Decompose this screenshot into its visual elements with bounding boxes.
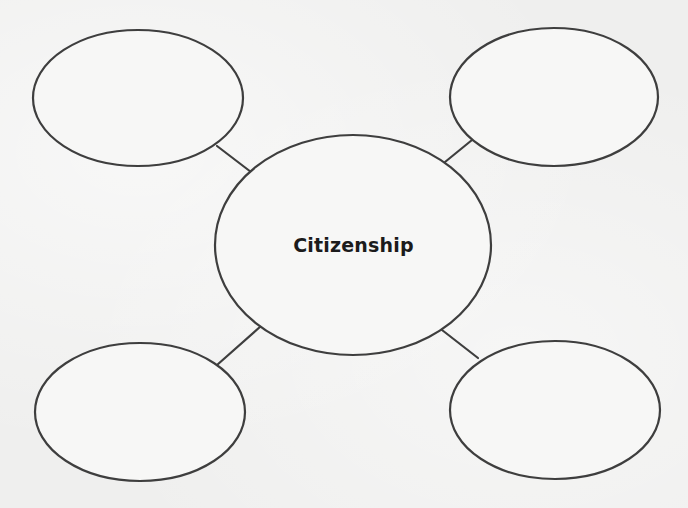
node-top-right[interactable] (450, 28, 658, 166)
connector-bottom-left (217, 326, 261, 365)
connector-bottom-right (442, 330, 478, 358)
concept-web-canvas: Citizenship (0, 0, 688, 508)
node-bottom-right[interactable] (450, 341, 660, 479)
connector-top-left (217, 146, 251, 172)
node-bottom-left[interactable] (35, 343, 245, 481)
connector-top-right (445, 140, 472, 162)
node-top-left[interactable] (33, 30, 243, 166)
center-node-label: Citizenship (216, 230, 491, 260)
